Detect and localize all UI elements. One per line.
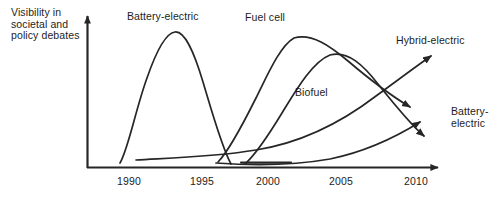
curve-battery-electric-late xyxy=(216,122,420,165)
series-curves xyxy=(120,32,431,165)
y-axis-label-line-3: policy debates xyxy=(11,30,85,42)
y-axis-label: Visibility in societal and policy debate… xyxy=(11,7,85,42)
series-label-battery-electric-late: Battery-electric xyxy=(451,106,497,129)
x-tick-label-2000: 2000 xyxy=(248,175,288,187)
x-tick-label-1990: 1990 xyxy=(109,175,149,187)
series-label-hybrid-electric: Hybrid-electric xyxy=(396,35,465,47)
chart-figure: Visibility in societal and policy debate… xyxy=(0,0,501,204)
x-tick-label-1995: 1995 xyxy=(182,175,222,187)
series-label-battery-electric-early: Battery-electric xyxy=(127,11,199,23)
curve-hybrid-electric xyxy=(136,56,431,160)
series-label-biofuel: Biofuel xyxy=(295,87,328,99)
series-label-fuel-cell: Fuel cell xyxy=(245,12,285,24)
x-tick-label-2005: 2005 xyxy=(321,175,361,187)
x-tick-label-2010: 2010 xyxy=(396,175,436,187)
y-axis-label-line-1: Visibility in xyxy=(11,7,85,19)
curve-battery-electric-early xyxy=(120,32,231,164)
